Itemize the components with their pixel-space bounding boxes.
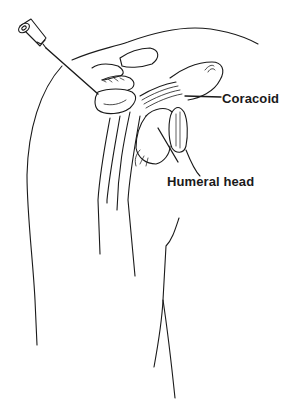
syringe-needle-icon [17, 19, 98, 94]
shoulder-anatomy-drawing [0, 0, 299, 414]
humeral-head-label: Humeral head [167, 174, 254, 189]
shoulder-injection-diagram: Coracoid Humeral head [0, 0, 299, 414]
coracoid-label: Coracoid [222, 91, 279, 106]
